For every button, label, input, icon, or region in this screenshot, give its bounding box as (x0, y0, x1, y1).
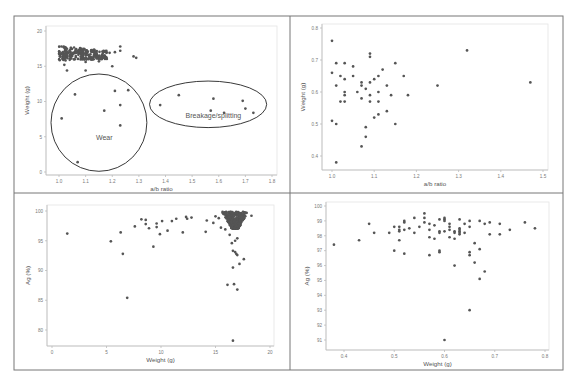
data-point (398, 225, 401, 228)
data-point (144, 223, 147, 226)
data-point (240, 215, 243, 218)
data-point (443, 339, 446, 342)
data-point (76, 161, 79, 164)
data-point (358, 239, 361, 242)
x-tick-label: 1.1 (371, 174, 378, 179)
data-point (335, 161, 338, 164)
data-point (90, 49, 93, 52)
x-axis-label: Weight (g) (146, 356, 174, 363)
data-point (443, 230, 446, 233)
x-tick-label: 1.0 (56, 179, 63, 184)
data-point (448, 228, 451, 231)
x-tick-label: 0.8 (542, 354, 549, 359)
data-point (98, 54, 101, 57)
data-point (373, 116, 376, 119)
data-point (244, 107, 247, 110)
data-point (448, 223, 451, 226)
x-tick-label: 1.3 (136, 179, 143, 184)
data-point (343, 94, 346, 97)
data-point (74, 93, 77, 96)
y-tick-label: 91 (317, 338, 323, 343)
data-point (217, 217, 220, 220)
data-point (190, 216, 193, 219)
data-point (66, 53, 69, 56)
x-tick-label: 20 (267, 350, 273, 355)
data-point (132, 55, 135, 58)
data-point (80, 50, 83, 53)
y-tick-label: 99 (317, 219, 323, 224)
data-point (212, 222, 215, 225)
data-point (236, 288, 239, 291)
data-point (70, 57, 73, 60)
data-point (62, 46, 65, 49)
data-point (171, 220, 174, 223)
data-point (228, 233, 231, 236)
data-point (119, 49, 122, 52)
data-point (82, 47, 85, 50)
data-point (94, 56, 97, 59)
data-point (214, 215, 217, 218)
x-tick-label: 0.4 (341, 354, 348, 359)
x-tick-label: 1.5 (189, 179, 196, 184)
data-point (224, 228, 227, 231)
data-point (453, 264, 456, 267)
data-point (238, 263, 241, 266)
data-point (105, 50, 108, 53)
data-point (84, 52, 87, 55)
data-point (407, 94, 410, 97)
data-point (148, 227, 151, 230)
x-tick-label: 15 (213, 350, 219, 355)
x-tick-label: 10 (158, 350, 164, 355)
x-tick-label: 1.4 (498, 174, 505, 179)
data-point (339, 75, 342, 78)
data-point (80, 55, 83, 58)
data-point (458, 218, 461, 221)
data-point (403, 221, 406, 224)
data-point (74, 55, 77, 58)
x-axis-label: a/b ratio (424, 180, 447, 187)
data-point (228, 215, 231, 218)
data-point (369, 100, 372, 103)
data-point (233, 219, 236, 222)
y-axis-label: Weight (g) (23, 86, 30, 114)
data-point (386, 84, 389, 87)
data-point (133, 225, 136, 228)
data-point (114, 51, 117, 54)
data-point (423, 221, 426, 224)
data-point (488, 221, 491, 224)
x-tick-label: 1.1 (82, 179, 89, 184)
data-point (63, 63, 66, 66)
data-point (398, 239, 401, 242)
data-point (110, 240, 113, 243)
x-tick-label: 0.5 (391, 354, 398, 359)
data-point (236, 227, 239, 230)
data-point (388, 231, 391, 234)
data-point (230, 227, 233, 230)
x-tick-label: 1.4 (162, 179, 169, 184)
data-point (100, 57, 103, 60)
data-point (232, 266, 235, 269)
data-point (85, 57, 88, 60)
data-point (230, 221, 233, 224)
y-tick-label: 85 (38, 298, 44, 303)
data-point (428, 228, 431, 231)
data-point (377, 75, 380, 78)
data-point (140, 218, 143, 221)
y-tick-label: 0.8 (312, 26, 319, 31)
data-point (236, 254, 239, 257)
data-point (73, 46, 76, 49)
data-point (364, 126, 367, 129)
data-point (204, 230, 207, 233)
data-point (428, 223, 431, 226)
x-tick-label: 1.2 (109, 179, 116, 184)
data-point (335, 84, 338, 87)
data-point (58, 59, 61, 62)
x-tick-label: 1.7 (242, 179, 249, 184)
data-point (448, 236, 451, 239)
data-point (418, 225, 421, 228)
data-point (368, 223, 371, 226)
data-point (364, 87, 367, 90)
data-point (226, 283, 229, 286)
data-point (483, 223, 486, 226)
x-tick-label: 0.7 (492, 354, 499, 359)
